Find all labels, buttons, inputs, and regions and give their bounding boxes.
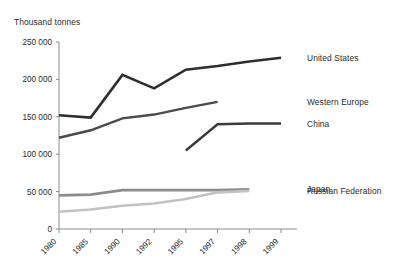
y-axis-tick-label: 100 000	[22, 150, 52, 159]
x-axis-tick-label: 1997	[198, 237, 218, 257]
series-line-united-states	[59, 58, 281, 118]
chart-container: Thousand tonnes 050 000100 000150 000200…	[0, 0, 404, 272]
x-axis-tick-label: 1992	[134, 237, 154, 257]
x-axis-tick-label: 1990	[103, 237, 123, 257]
y-axis-tick-label: 50 000	[27, 188, 52, 197]
legend-label-russian-federation: Russian Federation	[307, 186, 381, 196]
x-axis-tick-label: 1995	[166, 237, 186, 257]
y-axis-tick-label: 150 000	[22, 113, 52, 122]
y-axis-tick-group: 050 000100 000150 000200 000250 000	[22, 38, 59, 234]
x-axis-tick-group: 19801985199019921995199719981999	[39, 229, 281, 256]
y-axis-tick-label: 200 000	[22, 75, 52, 84]
series-line-china	[186, 124, 281, 151]
legend-label-western-europe: Western Europe	[307, 97, 369, 107]
legend-label-china: China	[307, 119, 329, 129]
legend-label-united-states: United States	[307, 53, 359, 63]
y-axis-tick-label: 250 000	[22, 38, 52, 47]
x-axis-tick-label: 1998	[229, 237, 249, 257]
chart-plot-area: 050 000100 000150 000200 000250 000 1980…	[0, 0, 404, 272]
x-axis-tick-label: 1980	[39, 237, 59, 257]
series-line-western-europe	[59, 102, 218, 138]
series-group	[59, 58, 281, 212]
x-axis-tick-label: 1985	[71, 237, 91, 257]
y-axis-tick-label: 0	[47, 225, 52, 234]
x-axis-tick-label: 1999	[261, 237, 281, 257]
